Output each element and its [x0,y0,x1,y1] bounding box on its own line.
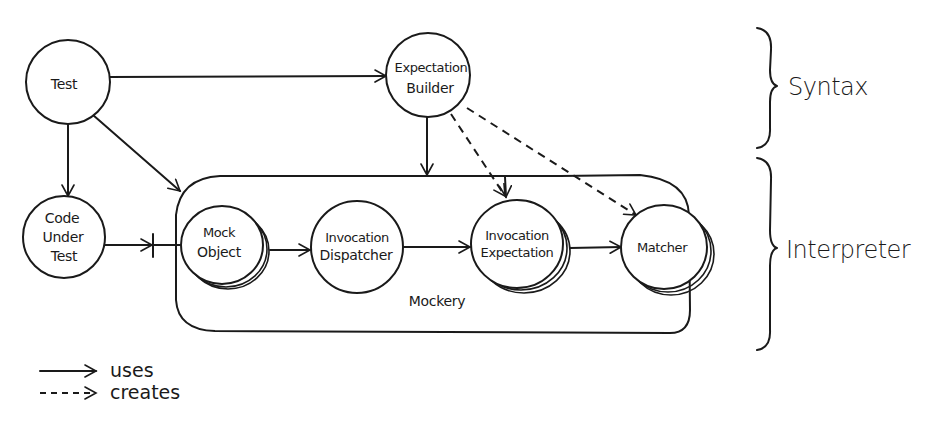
edge-test-to-expectation-builder [108,76,386,77]
creates-edges [451,108,636,215]
node-mock-object-label-1: Mock [203,225,236,240]
node-invocation-expectation: Invocation Expectation [471,200,570,293]
interpreter-label: Interpreter [786,236,911,264]
node-expectation-label-2: Expectation [481,245,554,260]
node-expectation-builder-label-2: Builder [406,80,454,96]
node-expectation-label-1: Invocation [485,228,549,243]
node-cut-label-3: Test [50,248,78,264]
edge-test-to-mockery [93,115,180,191]
syntax-layer: Syntax [757,28,868,148]
node-code-under-test: Code Under Test [23,196,105,278]
node-mock-object-label-2: Object [197,244,242,260]
mockery-label: Mockery [409,293,466,309]
node-dispatcher-label-2: Dispatcher [320,247,393,263]
interpreter-brace [757,158,777,350]
node-cut-label-2: Under [43,229,84,245]
node-cut-label-1: Code [45,210,80,226]
node-test-label: Test [50,76,78,92]
legend: uses creates [40,359,180,403]
legend-creates-label: creates [110,381,180,403]
node-dispatcher-label-1: Invocation [325,230,389,245]
syntax-label: Syntax [788,73,868,101]
node-expectation-builder: Expectation Builder [386,33,470,117]
node-mock-object: Mock Object [181,206,269,289]
node-matcher: Matcher [621,205,714,295]
architecture-diagram: Mockery Test Expectation Builder Code Un… [0,0,926,426]
legend-uses-label: uses [110,359,154,381]
edge-builder-creates-matcher [467,108,636,215]
interpreter-layer: Interpreter [757,158,911,350]
syntax-brace [757,28,777,148]
edge-expectation-to-matcher [570,247,621,248]
node-expectation-builder-label-1: Expectation [395,60,468,75]
node-test: Test [26,40,110,124]
node-invocation-dispatcher: Invocation Dispatcher [311,201,403,293]
node-matcher-label: Matcher [637,240,688,255]
